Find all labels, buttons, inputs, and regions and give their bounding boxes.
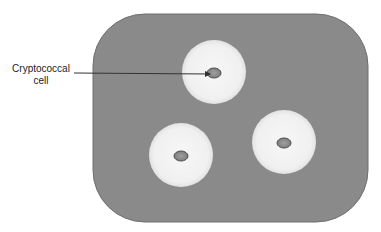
cryptococcal-cell-label: Cryptococcal cell (4, 63, 78, 87)
label-line-2: cell (4, 75, 78, 87)
capsule-halo (182, 40, 246, 104)
yeast-cell (174, 151, 188, 161)
label-line-1: Cryptococcal (4, 63, 78, 75)
yeast-cell (207, 68, 221, 78)
cryptococcus-india-ink-diagram (0, 0, 381, 232)
capsule-halo (252, 110, 316, 174)
capsule-halo (149, 123, 213, 187)
yeast-cell (277, 138, 291, 148)
